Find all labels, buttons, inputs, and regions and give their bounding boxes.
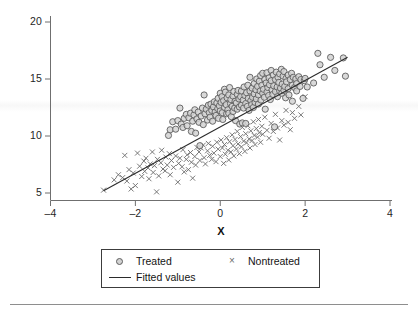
treated-point <box>243 120 249 126</box>
nontreated-point <box>146 176 151 181</box>
nontreated-point <box>127 167 132 172</box>
treated-point <box>220 116 226 122</box>
nontreated-point <box>288 127 293 132</box>
nontreated-point <box>139 174 144 179</box>
x-tick-label: –4 <box>31 207 71 219</box>
nontreated-point <box>262 115 267 120</box>
nontreated-point <box>165 163 170 168</box>
fitted-line-layer <box>104 57 348 190</box>
legend-entry-treated[interactable]: Treated <box>107 255 172 267</box>
nontreated-point <box>284 108 289 113</box>
nontreated-point <box>247 145 252 150</box>
nontreated-point <box>235 129 240 134</box>
legend-label-fitted-values: Fitted values <box>136 272 196 283</box>
nontreated-point <box>129 187 134 192</box>
treated-point <box>210 118 216 124</box>
treated-point <box>177 105 183 111</box>
nontreated-point <box>248 128 253 133</box>
nontreated-point <box>205 148 210 153</box>
nontreated-point <box>296 104 301 109</box>
x-tick-label: 4 <box>370 207 410 219</box>
nontreated-point <box>143 156 148 161</box>
nontreated-point <box>192 154 197 159</box>
nontreated-point <box>277 137 282 142</box>
x-tick-label: 0 <box>200 207 240 219</box>
nontreated-point <box>258 140 263 145</box>
nontreated-point <box>206 141 211 146</box>
treated-points-layer <box>165 50 348 149</box>
treated-point <box>193 130 199 136</box>
nontreated-point <box>237 151 242 156</box>
nontreated-point <box>156 173 161 178</box>
nontreated-point <box>112 177 117 182</box>
bottom-divider <box>10 304 408 305</box>
nontreated-point <box>281 123 286 128</box>
y-tick-label: 20 <box>8 15 42 27</box>
treated-point <box>300 95 306 101</box>
treated-point <box>311 80 317 86</box>
nontreated-point <box>190 176 195 181</box>
x-axis-ticks <box>51 201 391 207</box>
treated-point <box>321 74 327 80</box>
treated-point <box>317 62 323 68</box>
treated-point <box>184 123 190 129</box>
nontreated-point <box>254 126 259 131</box>
x-axis-title: X <box>171 225 271 237</box>
nontreated-point <box>231 153 236 158</box>
nontreated-point <box>203 161 208 166</box>
x-tick-label: 2 <box>285 207 325 219</box>
scatter-plot-figure: 5101520 –4–2024 X Treated × Nontreated F… <box>0 0 418 313</box>
nontreated-point <box>202 155 207 160</box>
nontreated-point <box>158 160 163 165</box>
nontreated-point <box>259 124 264 129</box>
nontreated-point <box>197 158 202 163</box>
nontreated-point <box>233 137 238 142</box>
nontreated-point <box>273 112 278 117</box>
nontreated-point <box>256 117 261 122</box>
treated-point <box>271 124 277 130</box>
nontreated-point <box>267 136 272 141</box>
nontreated-point <box>135 151 140 156</box>
y-tick-label: 15 <box>8 72 42 84</box>
nontreated-point <box>234 147 239 152</box>
nontreated-point <box>116 172 121 177</box>
nontreated-point <box>137 164 142 169</box>
line-marker-icon <box>107 271 133 283</box>
treated-point <box>286 92 292 98</box>
y-tick-label: 5 <box>8 186 42 198</box>
nontreated-point <box>292 116 297 121</box>
nontreated-point <box>286 120 291 125</box>
nontreated-point <box>141 159 146 164</box>
cross-marker-icon: × <box>219 255 245 267</box>
nontreated-point <box>159 148 164 153</box>
nontreated-point <box>230 132 235 137</box>
treated-point <box>201 92 207 98</box>
nontreated-point <box>224 135 229 140</box>
nontreated-point <box>175 180 180 185</box>
y-axis-ticks <box>45 22 51 193</box>
nontreated-point <box>163 168 168 173</box>
legend: Treated × Nontreated Fitted values <box>101 249 320 288</box>
nontreated-point <box>133 183 138 188</box>
nontreated-point <box>264 128 269 133</box>
treated-point <box>197 143 203 149</box>
nontreated-point <box>251 119 256 124</box>
nontreated-point <box>243 131 248 136</box>
treated-point <box>289 98 295 104</box>
x-tick-label: –2 <box>115 207 155 219</box>
nontreated-point <box>150 149 155 154</box>
nontreated-point <box>169 158 174 163</box>
nontreated-point <box>298 112 303 117</box>
nontreated-point <box>168 172 173 177</box>
circle-marker-icon <box>107 255 133 267</box>
nontreated-point <box>189 160 194 165</box>
nontreated-point <box>226 157 231 162</box>
nontreated-point <box>242 149 247 154</box>
legend-entry-fitted-values[interactable]: Fitted values <box>107 271 196 283</box>
nontreated-point <box>238 134 243 139</box>
nontreated-point <box>253 142 258 147</box>
treated-point <box>315 50 321 56</box>
legend-entry-nontreated[interactable]: × Nontreated <box>219 255 300 267</box>
treated-point <box>332 67 338 73</box>
nontreated-point <box>290 110 295 115</box>
